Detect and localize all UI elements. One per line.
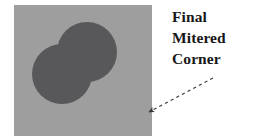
annotation-line-1: Final xyxy=(172,6,252,27)
figure-container: Final Mitered Corner xyxy=(0,0,253,140)
dashed-pointer-arrow xyxy=(149,78,213,112)
annotation-line-3: Corner xyxy=(172,48,252,69)
annotation-label: Final Mitered Corner xyxy=(172,6,252,69)
lower-left-circle xyxy=(32,44,92,104)
annotation-line-2: Mitered xyxy=(172,27,252,48)
